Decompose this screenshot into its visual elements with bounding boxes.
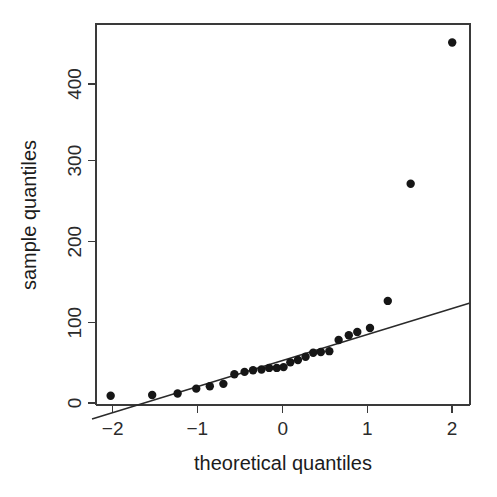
x-tick-label-2: 2 <box>447 418 458 439</box>
data-point <box>206 382 214 390</box>
chart-canvas: 0 100 200 300 400 −2 −1 0 1 2 theoretica… <box>0 0 497 497</box>
y-tick-label-0: 0 <box>64 398 85 409</box>
data-point <box>294 356 302 364</box>
data-point <box>148 391 156 399</box>
data-point <box>279 363 287 371</box>
data-point <box>240 368 248 376</box>
data-point <box>334 336 342 344</box>
data-point <box>448 38 456 46</box>
y-tick-label-100: 100 <box>64 307 85 339</box>
data-point <box>353 328 361 336</box>
y-axis-title: sample quantiles <box>18 140 40 290</box>
data-point <box>265 364 273 372</box>
data-point <box>230 370 238 378</box>
data-point <box>325 347 333 355</box>
data-point <box>192 384 200 392</box>
x-tick-label-0: 0 <box>277 418 288 439</box>
y-tick-label-200: 200 <box>64 226 85 258</box>
data-point <box>301 353 309 361</box>
data-point <box>286 358 294 366</box>
x-axis-title: theoretical quantiles <box>194 452 372 474</box>
y-tick-label-300: 300 <box>64 145 85 177</box>
data-point <box>309 349 317 357</box>
data-point <box>249 366 257 374</box>
data-point <box>384 297 392 305</box>
x-tick-label-minus2: −2 <box>102 418 124 439</box>
x-tick-label-minus1: −1 <box>186 418 208 439</box>
data-point <box>106 392 114 400</box>
data-point <box>366 324 374 332</box>
x-tick-label-1: 1 <box>362 418 373 439</box>
y-tick-label-400: 400 <box>64 68 85 100</box>
data-point <box>257 365 265 373</box>
data-point <box>317 348 325 356</box>
data-point <box>345 331 353 339</box>
data-point <box>173 389 181 397</box>
data-point <box>406 179 414 187</box>
data-point <box>219 380 227 388</box>
qq-plot-figure: 0 100 200 300 400 −2 −1 0 1 2 theoretica… <box>0 0 497 497</box>
